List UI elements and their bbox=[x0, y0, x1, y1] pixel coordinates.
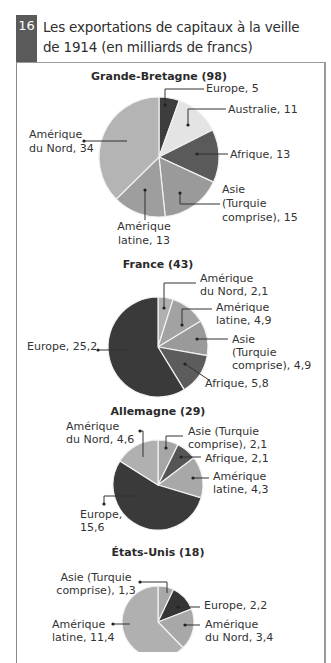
slice-label-etats-unis-18-amerique-du-nord: Amérique bbox=[205, 618, 259, 631]
leader-dot-allemagne-29-amerique-latine bbox=[191, 476, 194, 479]
slice-label-france-43-asie-turquie-comprise: comprise), 4,9 bbox=[232, 359, 311, 372]
slice-label-allemagne-29-amerique-latine: latine, 4,3 bbox=[213, 483, 268, 496]
slice-label-etats-unis-18-amerique-du-nord: du Nord, 3,4 bbox=[205, 631, 273, 644]
leader-dot-allemagne-29-afrique bbox=[179, 455, 182, 458]
leader-dot-grande-bretagne-98-amerique-latine bbox=[143, 188, 146, 191]
leader-dot-france-43-amerique-du-nord bbox=[162, 306, 165, 309]
slice-label-grande-bretagne-98-amerique-latine: Amérique bbox=[117, 220, 171, 233]
slice-label-france-43-asie-turquie-comprise: (Turquie bbox=[232, 346, 277, 359]
chart-title-allemagne-29: Allemagne (29) bbox=[111, 405, 206, 418]
leader-dot-france-43-asie-turquie-comprise bbox=[195, 337, 198, 340]
slice-label-grande-bretagne-98-australie: Australie, 11 bbox=[228, 103, 298, 116]
leader-dot-grande-bretagne-98-australie bbox=[186, 123, 189, 126]
slice-label-grande-bretagne-98-amerique-du-nord: Amérique bbox=[29, 128, 83, 141]
leader-dot-etats-unis-18-europe bbox=[176, 605, 179, 608]
slice-label-grande-bretagne-98-amerique-du-nord: du Nord, 34 bbox=[29, 142, 94, 155]
leader-dot-etats-unis-18-amerique-du-nord bbox=[183, 623, 186, 626]
chart-title-etats-unis-18: États-Unis (18) bbox=[112, 546, 205, 559]
leader-dot-etats-unis-18-asie-turquie-comprise bbox=[138, 580, 141, 583]
slice-label-grande-bretagne-98-afrique: Afrique, 13 bbox=[230, 148, 290, 161]
slice-label-france-43-amerique-latine: Amérique bbox=[216, 301, 270, 314]
slice-label-etats-unis-18-amerique-latine: Amérique bbox=[52, 618, 106, 631]
slice-label-france-43-afrique: Afrique, 5,8 bbox=[205, 377, 269, 390]
slice-label-france-43-europe: Europe, 25,2 bbox=[27, 340, 97, 353]
slice-label-allemagne-29-afrique: Afrique, 2,1 bbox=[205, 452, 269, 465]
leader-dot-grande-bretagne-98-asie-turquie-comprise bbox=[178, 191, 181, 194]
slice-label-etats-unis-18-amerique-latine: latine, 11,4 bbox=[52, 631, 114, 644]
slice-label-france-43-amerique-latine: latine, 4,9 bbox=[216, 314, 271, 327]
leader-dot-grande-bretagne-98-europe bbox=[163, 103, 166, 106]
leader-dot-allemagne-29-asie-turquie-comprise bbox=[164, 446, 167, 449]
leader-dot-france-43-afrique bbox=[183, 362, 186, 365]
slice-label-grande-bretagne-98-asie-turquie-comprise: comprise), 15 bbox=[222, 211, 298, 224]
slice-label-grande-bretagne-98-asie-turquie-comprise: (Turquie bbox=[222, 197, 267, 210]
leader-dot-france-43-amerique-latine bbox=[180, 323, 183, 326]
slice-label-allemagne-29-amerique-latine: Amérique bbox=[213, 470, 267, 483]
slice-label-grande-bretagne-98-europe: Europe, 5 bbox=[206, 82, 259, 95]
leader-dot-grande-bretagne-98-afrique bbox=[195, 152, 198, 155]
slice-label-allemagne-29-asie-turquie-comprise: Asie (Turquie bbox=[188, 425, 259, 438]
slice-label-france-43-amerique-du-nord: du Nord, 2,1 bbox=[200, 285, 268, 298]
leader-dot-etats-unis-18-amerique-latine bbox=[111, 622, 114, 625]
slice-label-etats-unis-18-asie-turquie-comprise: Asie (Turquie bbox=[61, 571, 132, 584]
slice-label-etats-unis-18-asie-turquie-comprise: comprise), 1,3 bbox=[56, 584, 135, 597]
slice-label-etats-unis-18-europe: Europe, 2,2 bbox=[204, 599, 267, 612]
chart-title-france-43: France (43) bbox=[123, 258, 194, 271]
slice-label-allemagne-29-europe: Europe, bbox=[80, 508, 122, 521]
slice-label-allemagne-29-amerique-du-nord: Amérique bbox=[66, 420, 120, 433]
slice-label-allemagne-29-asie-turquie-comprise: comprise), 2,1 bbox=[188, 438, 267, 451]
slice-label-allemagne-29-amerique-du-nord: du Nord, 4,6 bbox=[66, 433, 134, 446]
slice-label-allemagne-29-europe: 15,6 bbox=[80, 521, 105, 534]
slice-label-grande-bretagne-98-asie-turquie-comprise: Asie bbox=[222, 183, 245, 196]
slice-label-france-43-asie-turquie-comprise: Asie bbox=[232, 333, 255, 346]
leader-dot-allemagne-29-europe bbox=[102, 502, 105, 505]
slice-label-grande-bretagne-98-amerique-latine: latine, 13 bbox=[118, 234, 170, 247]
leader-dot-allemagne-29-amerique-du-nord bbox=[138, 429, 141, 432]
slice-label-france-43-amerique-du-nord: Amérique bbox=[200, 272, 254, 285]
